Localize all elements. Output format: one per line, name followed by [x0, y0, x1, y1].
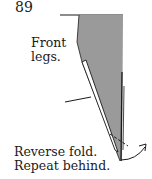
fold-arrow — [121, 147, 145, 160]
origami-diagram — [0, 0, 152, 179]
leg-shape — [77, 15, 123, 161]
front-legs-leader — [65, 97, 91, 102]
leg-right-edge-outer — [123, 86, 124, 150]
